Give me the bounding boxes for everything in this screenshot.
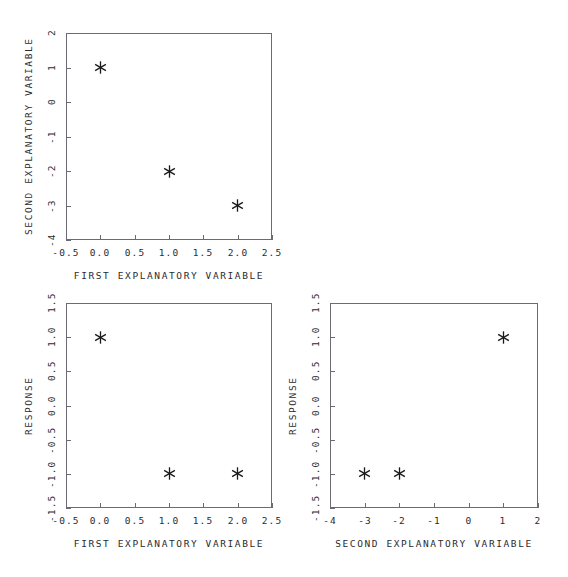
x-axis-label-bottom-right: SECOND EXPLANATORY VARIABLE (335, 539, 533, 549)
x-tick-top-1 (100, 235, 101, 240)
x-tick-label-bottom-left-6: 2.5 (262, 516, 282, 526)
x-tick-label-top-0: -0.5 (52, 248, 79, 258)
y-tick-bottom-left-3 (66, 406, 71, 407)
data-point-bottom-left-0 (94, 331, 107, 344)
x-axis-label-bottom-left: FIRST EXPLANATORY VARIABLE (74, 539, 264, 549)
y-tick-top-5 (66, 68, 71, 69)
x-tick-label-bottom-left-1: 0.0 (90, 516, 110, 526)
x-tick-label-bottom-right-6: 2 (535, 516, 542, 526)
data-point-top-2 (231, 199, 244, 212)
x-tick-label-bottom-right-2: -2 (392, 516, 406, 526)
y-tick-top-2 (66, 171, 71, 172)
y-tick-bottom-right-1 (330, 474, 335, 475)
y-tick-top-1 (66, 206, 71, 207)
y-tick-bottom-right-3 (330, 406, 335, 407)
x-tick-bottom-right-4 (469, 503, 470, 508)
y-tick-bottom-left-5 (66, 337, 71, 338)
y-tick-bottom-right-6 (330, 303, 335, 304)
x-tick-top-2 (135, 235, 136, 240)
x-tick-top-5 (238, 235, 239, 240)
y-axis-label-bottom-right: RESPONSE (288, 303, 298, 508)
x-tick-bottom-left-4 (203, 503, 204, 508)
y-tick-bottom-left-6 (66, 303, 71, 304)
data-point-bottom-right-2 (393, 467, 406, 480)
y-tick-bottom-right-5 (330, 337, 335, 338)
data-point-bottom-left-1 (163, 467, 176, 480)
x-tick-label-top-2: 0.5 (125, 248, 145, 258)
x-tick-bottom-right-3 (434, 503, 435, 508)
x-tick-label-bottom-right-1: -3 (358, 516, 372, 526)
x-tick-top-6 (272, 235, 273, 240)
x-tick-label-bottom-right-0: -4 (323, 516, 337, 526)
x-tick-label-bottom-left-2: 0.5 (125, 516, 145, 526)
x-tick-bottom-right-1 (365, 503, 366, 508)
x-tick-label-bottom-left-3: 1.0 (159, 516, 179, 526)
y-tick-bottom-right-0 (330, 508, 335, 509)
x-tick-label-bottom-right-5: 1 (500, 516, 507, 526)
x-tick-label-bottom-left-5: 2.0 (228, 516, 248, 526)
x-tick-label-bottom-left-4: 1.5 (193, 516, 213, 526)
data-point-bottom-left-2 (231, 467, 244, 480)
y-tick-top-4 (66, 102, 71, 103)
y-tick-bottom-left-1 (66, 474, 71, 475)
x-tick-bottom-right-5 (503, 503, 504, 508)
x-tick-bottom-left-3 (169, 503, 170, 508)
y-tick-top-6 (66, 33, 71, 34)
y-tick-bottom-left-0 (66, 508, 71, 509)
data-point-bottom-right-0 (497, 331, 510, 344)
x-tick-label-top-6: 2.5 (262, 248, 282, 258)
y-tick-bottom-left-2 (66, 440, 71, 441)
x-tick-label-top-1: 0.0 (90, 248, 110, 258)
y-tick-bottom-right-4 (330, 371, 335, 372)
x-axis-label-top: FIRST EXPLANATORY VARIABLE (74, 271, 264, 281)
y-axis-label-top: SECOND EXPLANATORY VARIABLE (24, 33, 34, 240)
x-tick-label-top-5: 2.0 (228, 248, 248, 258)
x-tick-label-bottom-right-3: -1 (427, 516, 441, 526)
x-tick-top-3 (169, 235, 170, 240)
x-tick-bottom-left-2 (135, 503, 136, 508)
x-tick-label-top-3: 1.0 (159, 248, 179, 258)
data-point-top-0 (94, 61, 107, 74)
x-tick-bottom-left-6 (272, 503, 273, 508)
y-axis-label-bottom-left: RESPONSE (24, 303, 34, 508)
y-tick-bottom-left-4 (66, 371, 71, 372)
x-tick-bottom-right-2 (399, 503, 400, 508)
x-tick-bottom-left-1 (100, 503, 101, 508)
x-tick-bottom-right-6 (538, 503, 539, 508)
x-tick-top-4 (203, 235, 204, 240)
data-point-top-1 (163, 165, 176, 178)
y-tick-top-0 (66, 240, 71, 241)
x-tick-label-bottom-right-4: 0 (466, 516, 473, 526)
x-tick-label-top-4: 1.5 (193, 248, 213, 258)
y-tick-top-3 (66, 137, 71, 138)
y-tick-bottom-right-2 (330, 440, 335, 441)
x-tick-bottom-left-5 (238, 503, 239, 508)
data-point-bottom-right-1 (358, 467, 371, 480)
